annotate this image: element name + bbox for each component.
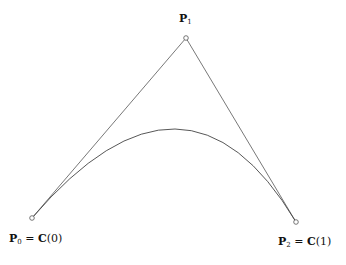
control-point-p0 [30, 216, 35, 221]
bezier-curve [32, 129, 296, 222]
label-p1: P1 [179, 12, 192, 26]
label-p2: P2 = C(1) [278, 235, 331, 249]
label-p2-arg: (1) [316, 235, 332, 248]
control-point-p1 [184, 36, 189, 41]
label-p2-eq: = [291, 235, 307, 248]
label-p2-rhs: C [307, 235, 316, 248]
control-point-p2 [294, 220, 299, 225]
label-p1-sub: 1 [187, 18, 191, 26]
control-segment-p0-p1 [32, 38, 186, 218]
control-segment-p1-p2 [186, 38, 296, 222]
bezier-diagram: P1 P0 = C(0) P2 = C(1) [0, 0, 346, 265]
label-p0-eq: = [22, 232, 38, 245]
label-p0-arg: (0) [47, 232, 63, 245]
diagram-svg [0, 0, 346, 265]
label-p0: P0 = C(0) [9, 232, 62, 246]
label-p0-rhs: C [38, 232, 47, 245]
